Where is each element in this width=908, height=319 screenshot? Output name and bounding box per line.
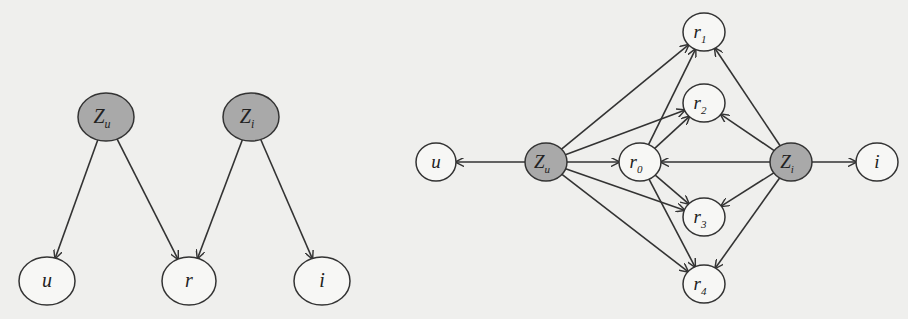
node-Zi: Zi — [223, 93, 279, 141]
node-r0: r0 — [619, 143, 661, 181]
graphical-model-figure: ZuZiuri uZur0r1r2r3r4Zii — [0, 0, 908, 319]
node-r2: r2 — [683, 84, 725, 122]
node-label: u — [431, 151, 441, 172]
node-r1: r1 — [683, 13, 725, 51]
observed-node-shape — [683, 198, 725, 236]
node-r: r — [162, 257, 216, 305]
observed-node-shape — [683, 13, 725, 51]
right-graphical-model: uZur0r1r2r3r4Zii — [416, 13, 898, 303]
node-i: i — [856, 143, 898, 181]
node-r3: r3 — [683, 198, 725, 236]
node-Zu: Zu — [78, 93, 134, 141]
observed-node-shape — [683, 265, 725, 303]
node-Zu: Zu — [525, 143, 567, 181]
edge-Zi-to-r — [198, 140, 243, 258]
edge-Zu-to-r1 — [562, 45, 689, 149]
latent-node-shape — [525, 143, 567, 181]
edge-Zi-to-r3 — [721, 173, 774, 206]
edge-Zi-to-r2 — [721, 114, 774, 150]
node-label: u — [42, 269, 52, 291]
node-u: u — [416, 143, 456, 181]
edge-Zu-to-u — [55, 140, 97, 258]
edge-Zi-to-r4 — [715, 178, 779, 268]
latent-node-shape — [770, 143, 812, 181]
edge-Zi-to-i — [261, 140, 313, 259]
node-i: i — [294, 257, 350, 305]
observed-node-shape — [619, 143, 661, 181]
edge-Zu-to-r — [117, 139, 178, 259]
diagram-canvas: ZuZiuri uZur0r1r2r3r4Zii — [0, 0, 908, 319]
node-u: u — [19, 257, 75, 305]
node-label: i — [319, 269, 325, 291]
left-graphical-model: ZuZiuri — [19, 93, 350, 305]
node-r4: r4 — [683, 265, 725, 303]
node-Zi: Zi — [770, 143, 812, 181]
node-label: i — [874, 151, 879, 172]
node-label: r — [185, 269, 193, 291]
observed-node-shape — [683, 84, 725, 122]
